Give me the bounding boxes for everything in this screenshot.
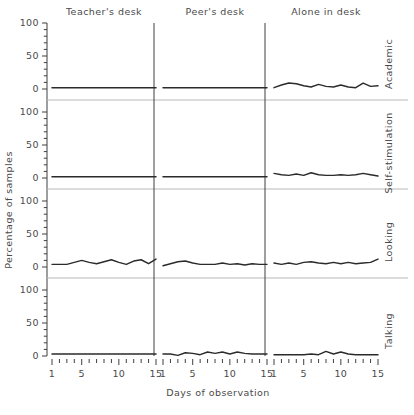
y-tick-label: 100 (20, 106, 39, 117)
x-tick-label: 10 (112, 368, 125, 379)
column-title-teacher-s-desk: Teacher's desk (65, 6, 142, 17)
data-line (274, 259, 378, 264)
y-tick-label: 0 (33, 83, 39, 94)
figure-panel-grid: 050100Academic050100Self-stimulation0501… (0, 0, 414, 415)
data-line (52, 259, 156, 264)
data-line (274, 83, 378, 88)
y-tick-label: 50 (26, 228, 39, 239)
y-tick-label: 100 (20, 17, 39, 28)
x-tick-label: 1 (49, 368, 55, 379)
y-tick-label: 0 (33, 350, 39, 361)
y-tick-label: 100 (20, 284, 39, 295)
x-tick-label: 5 (300, 368, 306, 379)
x-tick-label: 5 (78, 368, 84, 379)
row-label-looking: Looking (383, 222, 394, 262)
column-title-alone-in-desk: Alone in desk (291, 6, 361, 17)
y-tick-label: 100 (20, 195, 39, 206)
x-tick-label: 15 (372, 368, 385, 379)
x-tick-label: 5 (189, 368, 195, 379)
y-tick-label: 50 (26, 139, 39, 150)
x-tick-label: 1 (271, 368, 277, 379)
y-tick-label: 50 (26, 50, 39, 61)
data-line (163, 352, 267, 355)
y-tick-label: 0 (33, 172, 39, 183)
row-label-talking: Talking (383, 313, 394, 350)
x-tick-label: 10 (334, 368, 347, 379)
data-line (274, 351, 378, 354)
row-label-academic: Academic (383, 39, 394, 89)
data-line (274, 173, 378, 176)
y-tick-label: 0 (33, 261, 39, 272)
y-axis-title: Percentage of samples (3, 151, 14, 269)
column-title-peer-s-desk: Peer's desk (186, 6, 245, 17)
data-line (163, 261, 267, 266)
y-tick-label: 50 (26, 317, 39, 328)
chart-svg: 050100Academic050100Self-stimulation0501… (0, 0, 414, 415)
x-tick-label: 10 (223, 368, 236, 379)
x-tick-label: 1 (160, 368, 166, 379)
row-label-self-stimulation: Self-stimulation (383, 112, 394, 193)
x-axis-title: Days of observation (166, 387, 270, 398)
